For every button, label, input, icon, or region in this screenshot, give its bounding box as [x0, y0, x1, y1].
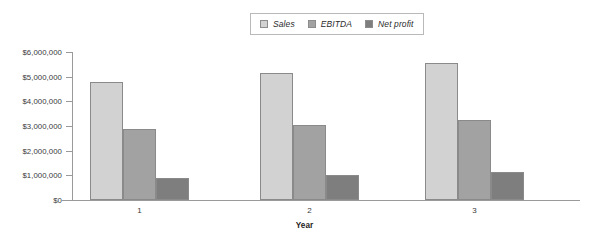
y-axis-tick [66, 52, 72, 53]
y-axis-tick-label: $1,000,000 [4, 171, 62, 180]
bar-net-profit-year-3[interactable] [491, 172, 524, 200]
y-axis-tick [66, 175, 72, 176]
y-axis-tick-label: $4,000,000 [4, 97, 62, 106]
y-axis-tick-label: $6,000,000 [4, 48, 62, 57]
y-axis-line [72, 52, 73, 201]
y-axis-tick-label: $3,000,000 [4, 122, 62, 131]
bar-chart: Sales EBITDA Net profit $0$1,000,000$2,0… [0, 0, 609, 246]
y-axis-tick-label: $2,000,000 [4, 146, 62, 155]
bar-ebitda-year-3[interactable] [458, 120, 491, 200]
y-axis-tick-label: $5,000,000 [4, 72, 62, 81]
bar-sales-year-3[interactable] [425, 63, 458, 200]
y-axis-tick-label-wrap: $2,000,000 [4, 151, 62, 152]
y-axis-tick-label-wrap: $3,000,000 [4, 126, 62, 127]
y-axis-tick [66, 101, 72, 102]
y-axis-tick-label-wrap: $6,000,000 [4, 52, 62, 53]
x-axis-title: Year [0, 221, 609, 230]
y-axis-tick [66, 200, 72, 201]
bar-ebitda-year-1[interactable] [123, 129, 156, 200]
y-axis-tick-label-wrap: $4,000,000 [4, 101, 62, 102]
bar-sales-year-2[interactable] [260, 73, 293, 200]
y-axis-tick-label-wrap: $0 [4, 200, 62, 201]
plot-area: $0$1,000,000$2,000,000$3,000,000$4,000,0… [0, 0, 609, 246]
bar-ebitda-year-2[interactable] [293, 125, 326, 200]
y-axis-tick [66, 77, 72, 78]
y-axis-tick [66, 126, 72, 127]
x-axis-tick-label: 2 [307, 206, 311, 215]
bar-net-profit-year-2[interactable] [326, 175, 359, 200]
y-axis-tick-label-wrap: $1,000,000 [4, 175, 62, 176]
y-axis-tick-label-wrap: $5,000,000 [4, 77, 62, 78]
y-axis-tick [66, 151, 72, 152]
x-axis-line [62, 200, 580, 201]
bar-sales-year-1[interactable] [90, 82, 123, 200]
x-axis-tick-label: 3 [472, 206, 476, 215]
bar-net-profit-year-1[interactable] [156, 178, 189, 200]
x-axis-tick-label: 1 [137, 206, 141, 215]
y-axis-tick-label: $0 [4, 196, 62, 205]
